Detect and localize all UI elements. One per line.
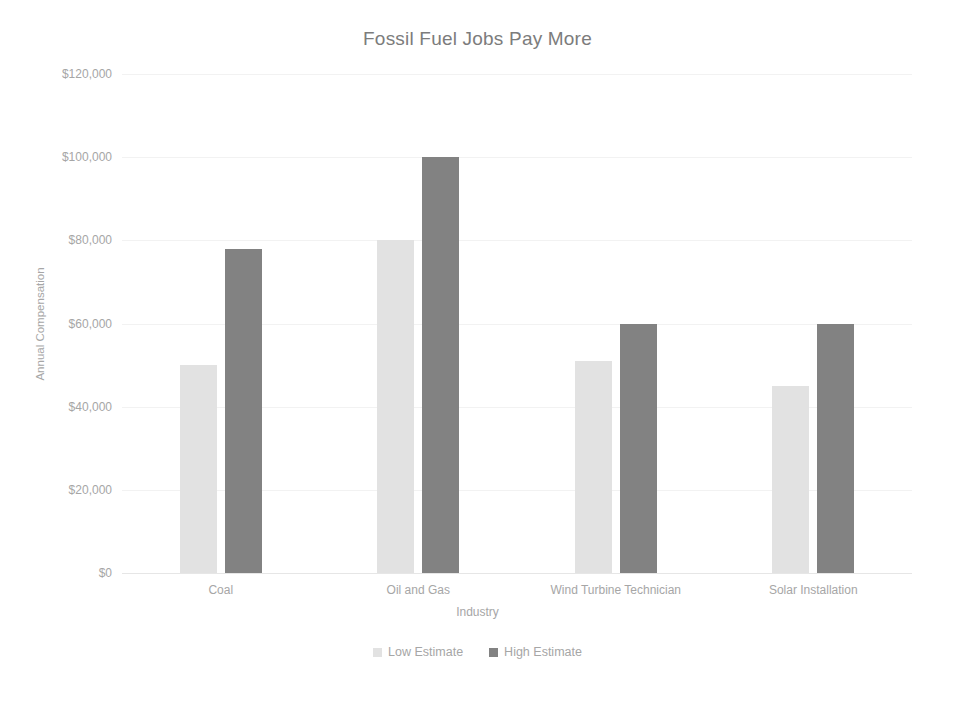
- y-axis-tick-label: $40,000: [22, 400, 112, 414]
- x-axis-tick-label: Solar Installation: [769, 583, 858, 597]
- legend-entry[interactable]: High Estimate: [489, 645, 582, 659]
- x-axis-tick-label: Oil and Gas: [387, 583, 450, 597]
- legend-swatch-icon: [489, 648, 498, 657]
- bar-high-estimate-wind-turbine-technician: [620, 324, 657, 574]
- gridline: [122, 74, 912, 75]
- bar-high-estimate-oil-and-gas: [422, 157, 459, 573]
- bar-high-estimate-solar-installation: [817, 324, 854, 574]
- x-axis-tick-label: Coal: [208, 583, 233, 597]
- bar-low-estimate-wind-turbine-technician: [575, 361, 612, 573]
- bar-low-estimate-oil-and-gas: [377, 240, 414, 573]
- legend-label: High Estimate: [504, 645, 582, 659]
- gridline: [122, 240, 912, 241]
- y-axis-tick-label: $60,000: [22, 317, 112, 331]
- y-axis-tick-label: $20,000: [22, 483, 112, 497]
- chart-container: Fossil Fuel Jobs Pay More Annual Compens…: [0, 0, 955, 701]
- chart-legend: Low EstimateHigh Estimate: [0, 645, 955, 659]
- chart-title: Fossil Fuel Jobs Pay More: [0, 28, 955, 50]
- y-axis-tick-label: $80,000: [22, 233, 112, 247]
- y-axis-tick-label: $0: [22, 566, 112, 580]
- bar-high-estimate-coal: [225, 249, 262, 573]
- x-axis-tick-label: Wind Turbine Technician: [550, 583, 681, 597]
- gridline: [122, 157, 912, 158]
- y-axis-tick-labels: $120,000$100,000$80,000$60,000$40,000$20…: [14, 74, 112, 573]
- legend-label: Low Estimate: [388, 645, 463, 659]
- plot-area: [122, 74, 912, 573]
- x-axis-title: Industry: [0, 605, 955, 619]
- legend-entry[interactable]: Low Estimate: [373, 645, 463, 659]
- legend-swatch-icon: [373, 648, 382, 657]
- y-axis-tick-label: $120,000: [22, 67, 112, 81]
- gridline: [122, 573, 912, 574]
- bar-low-estimate-solar-installation: [772, 386, 809, 573]
- bar-low-estimate-coal: [180, 365, 217, 573]
- y-axis-tick-label: $100,000: [22, 150, 112, 164]
